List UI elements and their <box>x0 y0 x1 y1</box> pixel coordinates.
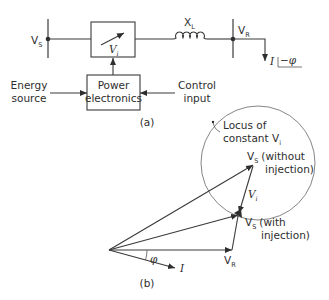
locus-label-1: Locus of <box>223 119 267 131</box>
receiving-voltage-label: VR <box>238 24 250 39</box>
current-phasor <box>109 250 175 268</box>
vs-without-phasor <box>109 165 253 250</box>
injected-voltage-label: Vi <box>109 43 119 58</box>
locus-label-2: constant Vi <box>223 132 281 147</box>
energy-source-label-2: source <box>12 92 47 104</box>
power-electronics-label-2: electronics <box>85 92 142 104</box>
vr-to-vs-with-line <box>232 216 238 250</box>
vs-with-phasor <box>109 215 238 250</box>
vs-with-label-2: injection) <box>261 229 310 241</box>
power-electronics-label-1: Power <box>98 79 130 91</box>
phi-label: φ <box>150 253 158 265</box>
caption-b: (b) <box>140 277 155 289</box>
circuit-diagram-a: VS Vi XL VR I −φ Power electronics Energ… <box>11 16 302 128</box>
vi-label: Vi <box>248 188 258 203</box>
svc-injection-diagram: VS Vi XL VR I −φ Power electronics Energ… <box>0 0 329 300</box>
control-input-label-1: Control <box>178 79 216 91</box>
sending-voltage-label: VS <box>31 34 42 49</box>
phasor-diagram-b: Locus of constant Vi φ VS(without inject… <box>109 106 315 289</box>
load-current-arrow <box>233 39 265 61</box>
phi-arc <box>146 250 148 260</box>
control-input-label-2: input <box>183 92 210 104</box>
locus-leader-dot <box>212 121 214 123</box>
current-label: I <box>179 262 185 274</box>
vr-label: VR <box>224 254 236 269</box>
reactance-label: XL <box>184 16 195 31</box>
load-current-label: I <box>269 55 275 67</box>
load-angle-label: −φ <box>280 54 297 66</box>
vs-without-label-2: injection) <box>265 163 314 175</box>
energy-source-label-1: Energy <box>11 79 48 91</box>
caption-a: (a) <box>140 116 155 128</box>
inductor-icon <box>173 32 207 39</box>
